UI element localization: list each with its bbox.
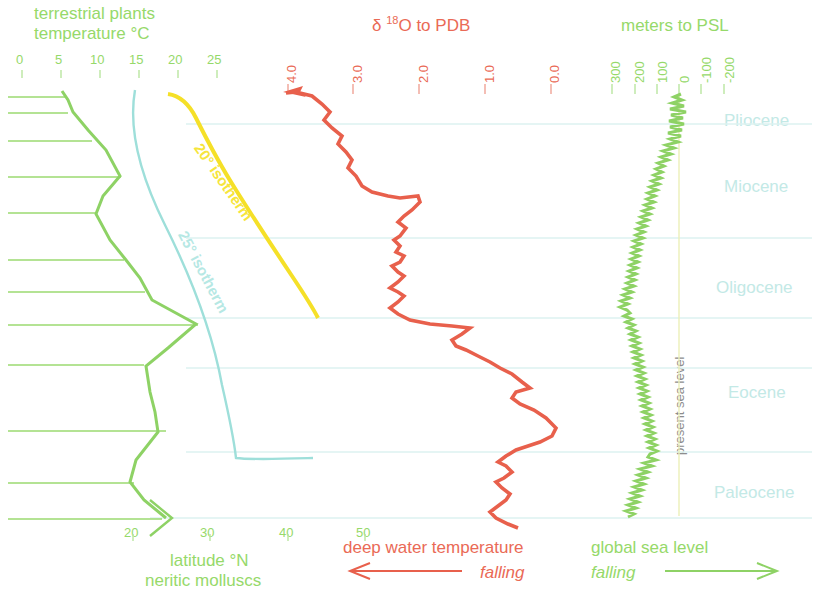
isotherm-25-curve bbox=[133, 90, 313, 459]
deep-water-falling-arrow bbox=[350, 563, 462, 579]
delta-18o-arrowhead bbox=[283, 86, 306, 97]
terrestrial-tick-marks bbox=[22, 70, 217, 78]
chart-figure: terrestrial plants temperature °C δ 18O … bbox=[0, 0, 828, 597]
delta-18o-curve bbox=[286, 92, 556, 528]
latitude-tick-marks bbox=[133, 534, 365, 541]
sea-level-falling-arrow bbox=[665, 563, 777, 579]
sealevel-tick-marks bbox=[612, 84, 724, 94]
isotope-tick-marks bbox=[288, 84, 551, 94]
chart-graphics bbox=[0, 0, 828, 597]
global-sea-level-curve bbox=[620, 94, 686, 517]
isotherm-20-curve bbox=[168, 94, 318, 318]
terrestrial-temperature-curve bbox=[62, 91, 196, 518]
